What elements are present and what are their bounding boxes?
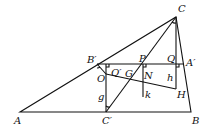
angle-mark-c-prime [106, 106, 110, 107]
label-c: C [178, 3, 186, 14]
angle-mark-c [172, 22, 176, 23]
label-b: B [191, 115, 199, 126]
label-a: A [13, 115, 21, 126]
label-n: N [143, 70, 154, 81]
label-h: H [176, 89, 186, 100]
label-p: P [138, 53, 146, 64]
label-g-segment: g [98, 91, 104, 102]
label-c-prime: C′ [102, 115, 113, 126]
geometry-diagram: A B C A′ B′ C′ O P Q Q′ G N H g h k [0, 0, 211, 133]
angle-mark-b-prime [97, 67, 100, 68]
label-q: Q [167, 53, 175, 64]
label-q-prime: Q′ [111, 67, 122, 78]
label-g: G [125, 68, 133, 79]
label-k-segment: k [145, 89, 151, 100]
label-o: O [97, 73, 105, 84]
label-b-prime: B′ [86, 54, 97, 65]
label-h-segment: h [167, 72, 173, 83]
label-a-prime: A′ [185, 57, 196, 68]
